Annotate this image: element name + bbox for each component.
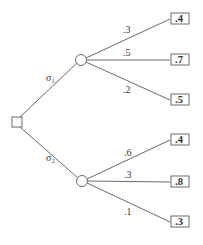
payoff-value: .4 bbox=[175, 13, 184, 24]
probability-label-2-2: .3 bbox=[124, 169, 132, 180]
chance-node-2 bbox=[77, 176, 88, 187]
terminal-node-1-3: .5 bbox=[171, 94, 189, 105]
terminal-node-1-1: .4 bbox=[171, 13, 189, 24]
payoff-value: .7 bbox=[175, 54, 183, 65]
payoff-value: .4 bbox=[175, 134, 184, 145]
terminal-node-2-2: .8 bbox=[171, 176, 189, 187]
action-label-2: σ₂ bbox=[46, 152, 55, 163]
probability-label-1-2: .5 bbox=[123, 47, 131, 58]
probability-label-2-3: .1 bbox=[124, 206, 132, 217]
chance-node-1 bbox=[76, 55, 87, 66]
decision-tree-diagram: σ₁ σ₂ .3 .5 .2 .6 .3 .1 .4 .7 .5 .4 .8 .… bbox=[0, 0, 203, 245]
terminal-node-1-2: .7 bbox=[171, 54, 189, 65]
probability-label-1-3: .2 bbox=[123, 84, 131, 95]
payoff-value: .8 bbox=[175, 176, 183, 187]
decision-node bbox=[12, 117, 22, 127]
probability-label-2-1: .6 bbox=[124, 147, 132, 158]
action-label-1: σ₁ bbox=[46, 72, 55, 83]
payoff-value: .3 bbox=[175, 216, 183, 227]
payoff-value: .5 bbox=[175, 94, 183, 105]
edge-outcome-2-2 bbox=[87, 181, 170, 182]
terminal-node-2-1: .4 bbox=[171, 134, 189, 145]
probability-label-1-1: .3 bbox=[123, 24, 131, 35]
terminal-node-2-3: .3 bbox=[171, 216, 189, 227]
